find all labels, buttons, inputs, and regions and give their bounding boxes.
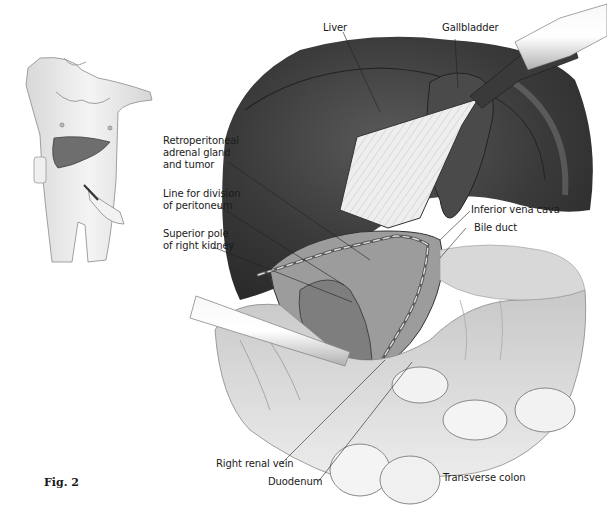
colon-segment <box>330 444 390 496</box>
label-duodenum: Duodenum <box>268 476 322 488</box>
label-superior-pole: Superior pole of right kidney <box>163 228 234 252</box>
label-retroperitoneal-adrenal-gland: Retroperitoneal adrenal gland and tumor <box>163 135 239 171</box>
label-inferior-vena-cava: Inferior vena cava <box>471 204 560 216</box>
label-gallbladder: Gallbladder <box>442 22 499 34</box>
label-liver: Liver <box>323 22 347 34</box>
colon-segment <box>515 388 575 432</box>
colon-segment <box>443 400 507 440</box>
inset-port-device <box>34 157 46 183</box>
label-transverse-colon: Transverse colon <box>443 472 525 484</box>
label-right-renal-vein: Right renal vein <box>216 458 294 470</box>
colon-segment <box>392 367 448 403</box>
colon-segment <box>380 456 440 504</box>
label-bile-duct: Bile duct <box>474 222 517 234</box>
inset-body-illustration <box>0 0 607 520</box>
figure-canvas: Liver Gallbladder Retroperitoneal adrena… <box>0 0 607 520</box>
figure-number: Fig. 2 <box>44 476 79 489</box>
label-line-for-division: Line for division of peritoneum <box>163 188 241 212</box>
